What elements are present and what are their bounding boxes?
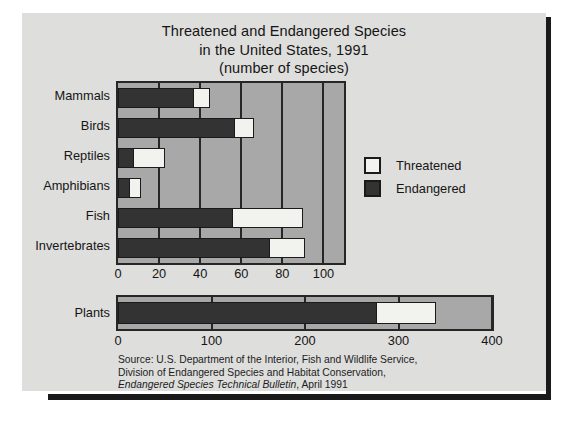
category-label-fish: Fish xyxy=(22,201,110,231)
category-label-birds: Birds xyxy=(22,111,110,141)
source-line-3: Endangered Species Technical Bulletin, A… xyxy=(118,379,518,392)
legend: Threatened Endangered xyxy=(364,155,466,201)
source-note: Source: U.S. Department of the Interior,… xyxy=(118,354,518,392)
x-tick-label-100: 100 xyxy=(201,333,222,348)
animals-plot-area xyxy=(116,81,346,265)
source-bulletin-title: Endangered Species Technical Bulletin xyxy=(118,379,296,390)
plate-shadow-right xyxy=(546,17,551,399)
threatened-swatch xyxy=(364,157,381,174)
animals-x-axis-ticks: 020406080100 xyxy=(116,266,376,286)
legend-label-endangered: Endangered xyxy=(396,181,466,196)
legend-item-threatened: Threatened xyxy=(364,155,466,176)
x-tick-label-0: 0 xyxy=(114,333,121,348)
bar-endangered xyxy=(118,238,270,258)
x-tick-label-60: 60 xyxy=(234,266,248,281)
source-line-2: Division of Endangered Species and Habit… xyxy=(118,367,518,380)
x-tick-label-40: 40 xyxy=(193,266,207,281)
title-line-1: Threatened and Endangered Species xyxy=(22,22,546,41)
plants-category-label: Plants xyxy=(22,295,110,331)
bar-row xyxy=(118,173,344,203)
x-tick-label-0: 0 xyxy=(114,266,121,281)
source-bulletin-date: , April 1991 xyxy=(296,379,348,390)
bar-row xyxy=(118,143,344,173)
page-title: Threatened and Endangered Species in the… xyxy=(22,22,546,78)
category-label-reptiles: Reptiles xyxy=(22,141,110,171)
category-label-amphibians: Amphibians xyxy=(22,171,110,201)
bar-threatened xyxy=(193,88,211,108)
figure-plate: Threatened and Endangered Species in the… xyxy=(22,13,546,391)
bar-row xyxy=(118,297,492,329)
bar-threatened xyxy=(232,208,303,228)
category-label-mammals: Mammals xyxy=(22,81,110,111)
bar-endangered xyxy=(118,208,233,228)
bar-threatened xyxy=(376,302,435,324)
x-tick-label-80: 80 xyxy=(275,266,289,281)
title-line-3: (number of species) xyxy=(22,59,546,78)
bar-threatened xyxy=(269,238,305,258)
x-tick-label-20: 20 xyxy=(152,266,166,281)
bar-row xyxy=(118,83,344,113)
x-tick-label-200: 200 xyxy=(294,333,315,348)
bar-row xyxy=(118,233,344,263)
title-line-2: in the United States, 1991 xyxy=(22,41,546,60)
source-line-1: Source: U.S. Department of the Interior,… xyxy=(118,354,518,367)
legend-label-threatened: Threatened xyxy=(396,158,461,173)
x-tick-label-300: 300 xyxy=(388,333,409,348)
bar-row xyxy=(118,113,344,143)
bar-threatened xyxy=(129,178,141,198)
bar-row xyxy=(118,203,344,233)
x-tick-label-100: 100 xyxy=(313,266,334,281)
bar-threatened xyxy=(133,148,165,168)
plants-plot-area xyxy=(116,295,494,331)
endangered-swatch xyxy=(364,180,381,197)
x-tick-label-400: 400 xyxy=(481,333,502,348)
bar-threatened xyxy=(234,118,254,138)
plants-x-axis-ticks: 0100200300400 xyxy=(116,333,516,353)
category-label-invertebrates: Invertebrates xyxy=(22,231,110,261)
bar-endangered xyxy=(118,118,235,138)
plate-shadow-bottom xyxy=(48,394,551,400)
legend-item-endangered: Endangered xyxy=(364,178,466,199)
animal-category-axis: MammalsBirdsReptilesAmphibiansFishInvert… xyxy=(22,81,110,265)
bar-endangered xyxy=(118,302,378,324)
bar-endangered xyxy=(118,88,194,108)
